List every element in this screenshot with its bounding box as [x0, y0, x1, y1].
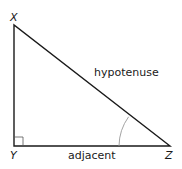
- vertex-label-z: Z: [164, 149, 173, 162]
- angle-arc-z: [119, 117, 129, 146]
- right-angle-marker: [14, 137, 23, 146]
- adjacent-label: adjacent: [68, 149, 116, 162]
- triangle-diagram: X Y Z hypotenuse adjacent: [0, 0, 182, 169]
- triangle-outline: [14, 25, 170, 146]
- vertex-label-x: X: [9, 11, 18, 24]
- vertex-label-y: Y: [10, 149, 18, 162]
- hypotenuse-label: hypotenuse: [94, 66, 159, 79]
